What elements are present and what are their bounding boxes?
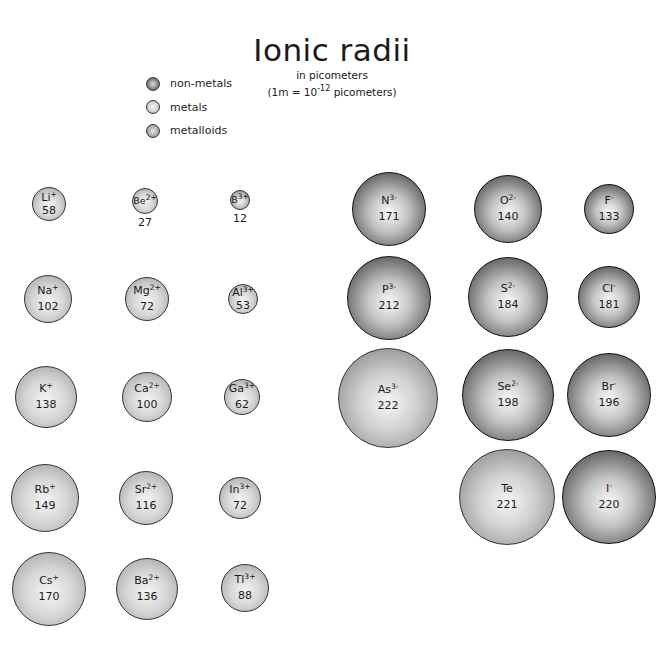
ion-charge: 2+ xyxy=(146,193,157,202)
ion-sphere-br: Br-196 xyxy=(567,353,651,437)
ion-radius-value: 181 xyxy=(599,298,620,311)
ion-sphere-li: Li+58 xyxy=(32,187,66,221)
ion-radius-value: 58 xyxy=(42,204,56,217)
ion-radius-value: 149 xyxy=(35,499,56,512)
unit-prefix: (1m = 10 xyxy=(267,86,317,98)
ion-symbol: Rb+ xyxy=(35,484,56,496)
ion-charge: - xyxy=(611,193,614,202)
ion-radius-value: 27 xyxy=(138,216,152,229)
ion-symbol: Na+ xyxy=(37,285,58,297)
ion-charge: 2- xyxy=(508,281,515,290)
ion-charge: 3+ xyxy=(240,482,251,491)
ion-symbol: Be2+ xyxy=(133,195,156,207)
ion-sphere-p: P3-212 xyxy=(347,256,431,340)
ion-symbol: Br- xyxy=(602,381,617,393)
ion-radius-value: 138 xyxy=(36,398,57,411)
ion-symbol: B3+ xyxy=(231,194,249,206)
ion-radius-value: 140 xyxy=(498,210,519,223)
ion-symbol: Mg2+ xyxy=(133,285,161,297)
ion-charge: - xyxy=(613,281,616,290)
unit-exponent: -12 xyxy=(317,84,330,93)
ion-radius-value: 100 xyxy=(137,398,158,411)
legend-label: metalloids xyxy=(170,124,227,137)
subtitle-line-2: (1m = 10-12 picometers) xyxy=(232,82,432,99)
ion-charge: + xyxy=(52,283,58,292)
ion-symbol: N3- xyxy=(381,195,397,207)
ion-symbol: Li+ xyxy=(41,192,56,204)
ion-symbol: O2- xyxy=(500,195,516,207)
ion-charge: 3+ xyxy=(244,572,255,581)
ion-sphere-cl: Cl-181 xyxy=(578,266,640,328)
page-title: Ionic radii xyxy=(0,32,670,68)
ion-charge: 2- xyxy=(511,379,518,388)
ion-symbol: S2- xyxy=(501,283,515,295)
ion-radius-value: 72 xyxy=(140,300,154,313)
ion-charge: + xyxy=(53,573,59,582)
ion-symbol: As3- xyxy=(378,384,399,396)
ion-radius-value: 171 xyxy=(379,210,400,223)
ion-charge: + xyxy=(49,482,55,491)
ion-radius-value: 184 xyxy=(498,298,519,311)
ion-sphere-mg: Mg2+72 xyxy=(125,277,169,321)
ion-sphere-as: As3-222 xyxy=(338,348,438,448)
ion-radius-value: 88 xyxy=(238,589,252,602)
subtitle: in picometers (1m = 10-12 picometers) xyxy=(232,69,432,99)
ion-radius-value: 212 xyxy=(379,299,400,312)
ion-sphere-o: O2-140 xyxy=(474,175,542,243)
ion-symbol: P3- xyxy=(382,284,396,296)
ion-charge: 2- xyxy=(509,193,516,202)
ion-sphere-se: Se2-198 xyxy=(462,349,554,441)
ion-symbol: F- xyxy=(604,195,613,207)
ion-symbol: K+ xyxy=(39,383,53,395)
ion-sphere-al: Al3+53 xyxy=(228,284,258,314)
ion-symbol: Ba2+ xyxy=(134,575,159,587)
ion-sphere-k: K+138 xyxy=(15,366,77,428)
ion-symbol: Ga3+ xyxy=(229,383,255,395)
ion-sphere-tl: Tl3+88 xyxy=(221,564,269,612)
ion-charge: 2+ xyxy=(146,482,157,491)
ion-charge: + xyxy=(46,381,52,390)
ion-radius-value: 72 xyxy=(233,499,247,512)
ion-radius-value: 198 xyxy=(498,396,519,409)
ion-charge: 3+ xyxy=(244,381,255,390)
legend-label: non-metals xyxy=(170,77,232,90)
metalloid-sphere-icon xyxy=(146,124,160,138)
title-text: Ionic radii xyxy=(253,32,410,68)
ion-sphere-ba: Ba2+136 xyxy=(116,558,178,620)
ion-radius-value: 196 xyxy=(599,396,620,409)
ion-radius-value: 133 xyxy=(599,210,620,223)
ion-sphere-sr: Sr2+116 xyxy=(119,471,173,525)
ion-sphere-n: N3-171 xyxy=(352,172,426,246)
subtitle-line-1: in picometers xyxy=(232,69,432,82)
ion-sphere-ga: Ga3+62 xyxy=(224,379,260,415)
ion-charge: 2+ xyxy=(149,573,160,582)
ion-radius-value: 12 xyxy=(233,212,247,225)
legend-item-metals: metals xyxy=(146,96,232,120)
ion-sphere-rb: Rb+149 xyxy=(11,464,79,532)
ion-sphere-ca: Ca2+100 xyxy=(122,372,172,422)
ion-radius-value: 221 xyxy=(497,498,518,511)
ion-radius-value: 170 xyxy=(39,590,60,603)
ion-symbol: I- xyxy=(606,483,612,495)
ion-sphere-cs: Cs+170 xyxy=(12,552,86,626)
nonmetal-sphere-icon xyxy=(146,77,160,91)
ion-charge: 3+ xyxy=(238,192,249,201)
metal-sphere-icon xyxy=(146,100,160,114)
ion-symbol: Cl- xyxy=(602,283,615,295)
ion-radius-value: 53 xyxy=(236,299,250,312)
ion-charge: 3- xyxy=(391,382,398,391)
ion-sphere-na: Na+102 xyxy=(24,275,72,323)
ion-sphere-be: Be2+ xyxy=(132,188,158,214)
ion-charge: - xyxy=(609,481,612,490)
ion-sphere-f: F-133 xyxy=(584,184,634,234)
ion-sphere-in: In3+72 xyxy=(219,477,261,519)
ion-radius-value: 222 xyxy=(378,399,399,412)
ion-charge: 3+ xyxy=(243,285,254,294)
legend: non-metals metals metalloids xyxy=(146,72,232,143)
ion-radius-value: 136 xyxy=(137,590,158,603)
ion-symbol: Tl3+ xyxy=(235,574,256,586)
ion-symbol: Se2- xyxy=(497,381,518,393)
ion-symbol: Te xyxy=(501,483,513,495)
ion-sphere-s: S2-184 xyxy=(468,257,548,337)
ion-radius-value: 220 xyxy=(599,498,620,511)
